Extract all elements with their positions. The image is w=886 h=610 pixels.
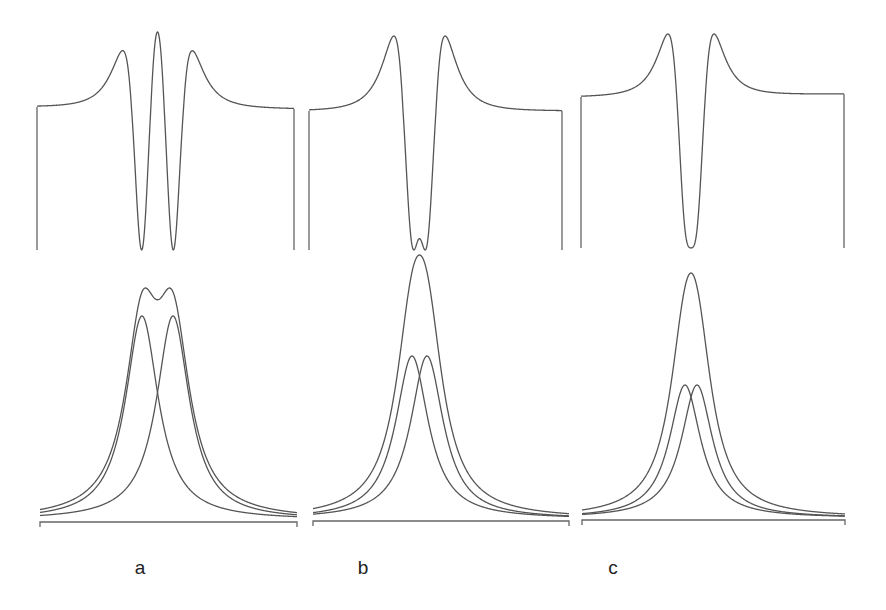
- panel-c-bottom: [582, 273, 845, 525]
- panel-b-component-1-curve: [313, 356, 569, 516]
- panel-a-component-2-curve: [40, 316, 297, 515]
- panel-label-a: a: [135, 558, 146, 577]
- panel-b-component-2-curve: [313, 356, 569, 516]
- panel-a-top: [37, 32, 294, 250]
- panel-b-sum-curve: [313, 255, 569, 514]
- panel-b-top: [309, 36, 562, 250]
- panel-b-second-derivative-curve: [309, 36, 562, 250]
- panel-c-component-2-curve: [582, 385, 845, 516]
- panel-c-second-derivative-curve: [581, 34, 844, 248]
- figure-canvas: [0, 0, 886, 610]
- panel-a-sum-curve: [40, 288, 297, 513]
- panel-label-b: b: [358, 558, 369, 577]
- panel-c-baseline: [582, 520, 845, 525]
- panel-a-baseline: [40, 522, 297, 527]
- panel-c-top-frame: [581, 94, 844, 248]
- panel-b-top-frame: [309, 111, 562, 250]
- panel-label-c: c: [608, 558, 618, 577]
- panel-a-component-1-curve: [40, 316, 297, 517]
- panel-c-top: [581, 34, 844, 248]
- panel-b-bottom: [313, 255, 569, 526]
- panel-c-component-1-curve: [582, 385, 845, 516]
- panel-a-bottom: [40, 288, 297, 527]
- panel-b-baseline: [313, 521, 569, 526]
- panel-a-second-derivative-curve: [37, 32, 294, 250]
